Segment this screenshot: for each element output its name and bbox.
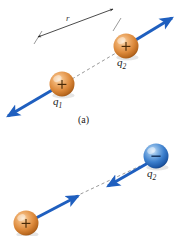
charge-sphere-q1-panel-b	[14, 211, 39, 237]
panel-a-group	[8, 9, 172, 116]
force-arrow-on-q1-b	[36, 196, 78, 218]
charge-label-q2-panel-b: q2	[147, 168, 156, 182]
force-arrow-on-q1	[8, 89, 54, 116]
distance-dimension-line	[34, 9, 121, 44]
separation-dashed-line-b	[70, 166, 140, 199]
dimension-measure-line	[38, 9, 113, 37]
distance-label-r: r	[66, 14, 70, 23]
force-arrow-on-q2	[134, 18, 172, 41]
panel-a-caption: (a)	[78, 114, 89, 125]
dimension-extension-right	[113, 18, 121, 31]
charge-label-q1-panel-a: q1	[53, 96, 62, 110]
separation-dashed-line-a	[72, 53, 116, 79]
force-arrow-on-q2-b	[108, 163, 148, 186]
panel-b-group	[14, 144, 169, 237]
coulomb-law-figure: r q1 q2 (a) q2	[0, 0, 181, 236]
figure-canvas	[0, 0, 181, 236]
dimension-extension-left	[34, 31, 42, 44]
charge-label-q2-panel-a: q2	[117, 57, 126, 71]
